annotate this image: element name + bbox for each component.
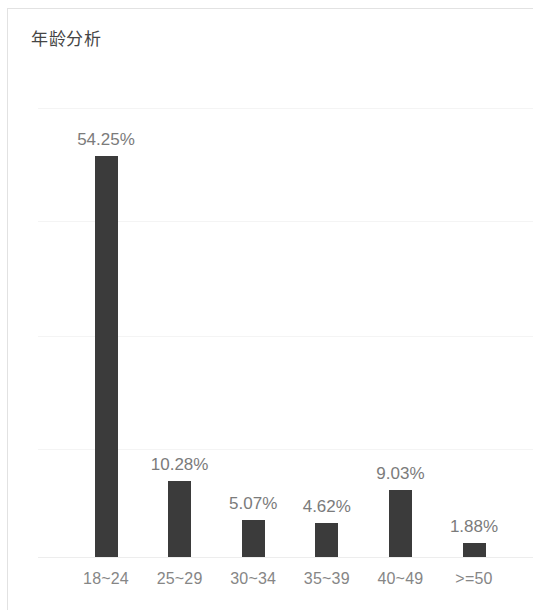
bar[interactable] [242,520,265,557]
bar-value-label: 5.07% [229,494,277,514]
x-axis-category-label: >=50 [455,569,492,589]
bar[interactable] [95,156,118,557]
x-axis-category-label: 18~24 [83,569,129,589]
age-analysis-card: 年龄分析 54.25%18~2410.28%25~295.07%30~344.6… [7,8,533,610]
bar-value-label: 10.28% [151,455,209,475]
bar[interactable] [168,481,191,557]
bar[interactable] [389,490,412,557]
bar-value-label: 4.62% [303,497,351,517]
bar-value-label: 1.88% [450,517,498,537]
bars-layer: 54.25%18~2410.28%25~295.07%30~344.62%35~… [8,9,533,610]
bar[interactable] [463,543,486,557]
bar[interactable] [315,523,338,557]
bar-value-label: 9.03% [376,464,424,484]
x-axis-category-label: 35~39 [304,569,350,589]
bar-chart-plot-area: 54.25%18~2410.28%25~295.07%30~344.62%35~… [8,9,533,610]
bar-value-label: 54.25% [77,130,135,150]
x-axis-category-label: 40~49 [377,569,423,589]
x-axis-category-label: 30~34 [230,569,276,589]
x-axis-category-label: 25~29 [157,569,203,589]
